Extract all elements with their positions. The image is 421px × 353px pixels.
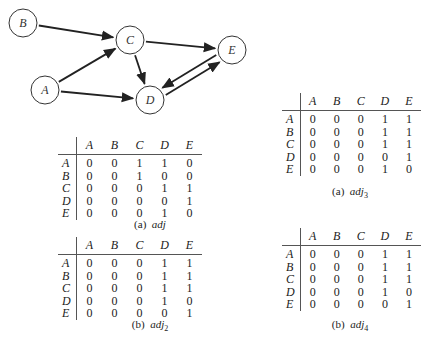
matrix-cell: 0	[325, 273, 349, 286]
caption-label: (b)	[332, 318, 345, 330]
matrix-cell: 0	[349, 273, 373, 286]
edge-E-D	[162, 55, 216, 88]
table-row: E00010	[282, 163, 421, 176]
table-row: A00011	[282, 246, 421, 261]
matrix-cell: 1	[397, 138, 421, 151]
node-label: C	[126, 33, 135, 47]
matrix-cell: 0	[77, 155, 103, 170]
matrix-cell: 1	[152, 182, 177, 195]
column-header: E	[397, 93, 421, 111]
row-header: C	[282, 138, 300, 151]
caption-adj3: (a) adj3	[290, 185, 410, 200]
table-row: A00011	[282, 111, 421, 126]
matrix-cell: 0	[325, 298, 349, 311]
caption-sub: 3	[364, 191, 368, 200]
row-header: A	[282, 246, 300, 261]
column-header: C	[127, 237, 152, 255]
node-label: B	[19, 16, 27, 30]
matrix-cell: 0	[77, 282, 103, 295]
table-corner	[282, 93, 300, 111]
table-row: D00010	[58, 295, 202, 308]
table-row: A00011	[58, 255, 202, 270]
caption-name: adj	[350, 318, 364, 330]
row-header: E	[58, 307, 77, 320]
matrix-cell: 1	[177, 182, 202, 195]
column-header: C	[349, 93, 373, 111]
table-row: D00010	[282, 286, 421, 299]
matrix-cell: 1	[373, 273, 397, 286]
matrix-adj4: ABCDEA00011B00011C00011D00010E00001	[282, 228, 421, 311]
node-E: E	[218, 36, 246, 64]
matrix-cell: 0	[127, 255, 152, 270]
matrix-cell: 0	[325, 163, 349, 176]
caption-label: (a)	[332, 185, 344, 197]
matrix-cell: 0	[300, 273, 325, 286]
table-row: C00011	[282, 273, 421, 286]
table-row: C00011	[282, 138, 421, 151]
row-header: C	[282, 273, 300, 286]
table-row: A00110	[58, 155, 202, 170]
caption-name: adj	[150, 318, 164, 330]
row-header: E	[58, 207, 77, 220]
caption-name: adj	[350, 185, 364, 197]
column-header: E	[177, 137, 202, 155]
matrix-cell: 0	[349, 298, 373, 311]
edge-C-E	[146, 42, 215, 49]
matrix-adj2: ABCDEA00011B00011C00011D00010E00001	[58, 237, 202, 320]
matrix-cell: 0	[349, 111, 373, 126]
table-row: B00100	[58, 170, 202, 183]
matrix-cell: 0	[300, 111, 325, 126]
matrix-cell: 1	[177, 282, 202, 295]
row-header: E	[282, 163, 300, 176]
caption-sub: 4	[364, 324, 368, 333]
table-corner	[58, 237, 77, 255]
matrix-cell: 1	[397, 298, 421, 311]
column-header: D	[152, 237, 177, 255]
column-header: E	[177, 237, 202, 255]
row-header: C	[58, 282, 77, 295]
matrix-cell: 0	[102, 155, 127, 170]
row-header: C	[58, 182, 77, 195]
matrix-cell: 0	[300, 163, 325, 176]
node-A: A	[31, 76, 59, 104]
column-header: B	[325, 93, 349, 111]
column-header: A	[300, 93, 325, 111]
row-header: E	[282, 298, 300, 311]
node-label: A	[40, 83, 49, 97]
matrix-cell: 1	[397, 246, 421, 261]
adjacency-table: ABCDEA00011B00011C00011D00001E00010	[282, 93, 421, 176]
matrix-cell: 0	[349, 246, 373, 261]
matrix-cell: 1	[152, 255, 177, 270]
matrix-cell: 0	[373, 298, 397, 311]
table-corner	[282, 228, 300, 246]
matrix-cell: 1	[373, 163, 397, 176]
matrix-cell: 0	[349, 138, 373, 151]
column-header: A	[300, 228, 325, 246]
matrix-cell: 0	[300, 246, 325, 261]
adjacency-table: ABCDEA00110B00100C00011D00001E00010	[58, 137, 202, 220]
matrix-cell: 0	[177, 155, 202, 170]
matrix-adj3: ABCDEA00011B00011C00011D00001E00010	[282, 93, 421, 176]
matrix-cell: 0	[102, 182, 127, 195]
node-B: B	[9, 9, 37, 37]
matrix-cell: 0	[77, 182, 103, 195]
matrix-cell: 1	[373, 111, 397, 126]
column-header: A	[77, 237, 103, 255]
column-header: B	[325, 228, 349, 246]
column-header: C	[127, 137, 152, 155]
row-header: A	[58, 255, 77, 270]
table-row: C00011	[58, 282, 202, 295]
caption-adj4: (b) adj4	[290, 318, 410, 333]
column-header: B	[102, 137, 127, 155]
matrix-cell: 0	[102, 282, 127, 295]
edge-A-D	[61, 92, 133, 99]
column-header: D	[373, 228, 397, 246]
matrix-cell: 0	[77, 255, 103, 270]
matrix-cell: 0	[127, 182, 152, 195]
row-header: A	[58, 155, 77, 170]
row-header: A	[282, 111, 300, 126]
matrix-cell: 0	[325, 246, 349, 261]
edge-A-C	[59, 49, 116, 82]
table-row: E00001	[282, 298, 421, 311]
table-row: D00001	[282, 151, 421, 164]
